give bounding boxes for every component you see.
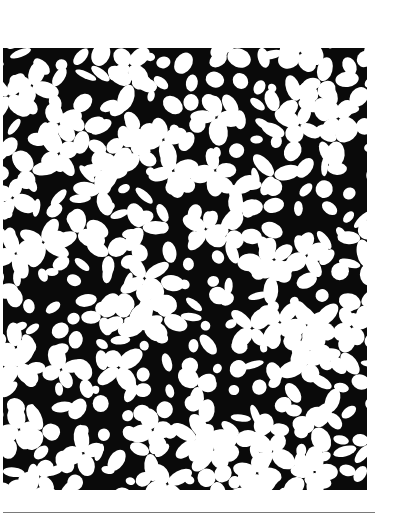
petal: [305, 446, 324, 471]
petal-pattern-illustration: [3, 48, 367, 490]
petal: [170, 49, 197, 77]
petal: [335, 70, 360, 88]
petal: [230, 413, 251, 423]
petal: [339, 403, 358, 421]
petal: [161, 240, 178, 264]
petal: [349, 372, 367, 393]
petal: [70, 48, 91, 68]
petal: [341, 209, 356, 225]
petal: [321, 48, 335, 50]
petal: [294, 201, 303, 216]
petal: [363, 76, 367, 89]
petal: [46, 268, 59, 276]
petal: [88, 48, 114, 69]
petal: [248, 95, 267, 113]
petal: [75, 292, 98, 308]
petal: [263, 277, 279, 305]
petal: [204, 69, 227, 90]
petal: [228, 384, 240, 396]
petal: [280, 138, 305, 164]
petal: [117, 182, 132, 195]
petal: [211, 362, 224, 375]
petal: [250, 135, 263, 143]
petal: [332, 434, 349, 446]
petal: [93, 395, 109, 412]
horizontal-rule: [3, 512, 375, 513]
petal: [160, 352, 174, 373]
petal: [196, 332, 220, 358]
petal: [3, 165, 10, 182]
petal: [135, 366, 151, 383]
petal: [134, 382, 153, 398]
petal: [133, 185, 155, 206]
petal: [155, 55, 171, 70]
petal: [98, 428, 110, 441]
petal: [164, 383, 176, 399]
petal: [22, 298, 36, 315]
petal: [94, 337, 110, 351]
petal: [365, 166, 367, 184]
petal: [297, 181, 315, 199]
petal: [185, 74, 199, 93]
petal: [366, 181, 367, 204]
petal: [209, 248, 226, 266]
petal: [199, 319, 212, 332]
petal: [154, 202, 171, 224]
petal: [364, 143, 367, 153]
petal: [206, 275, 220, 289]
petal: [227, 141, 247, 161]
petal: [113, 487, 132, 490]
petal: [314, 288, 329, 303]
petal: [120, 408, 136, 424]
petal: [365, 480, 367, 490]
petal: [341, 185, 358, 202]
petal: [188, 339, 198, 353]
petal: [363, 396, 367, 414]
petal: [183, 94, 199, 111]
petal: [251, 379, 267, 396]
petal: [182, 257, 194, 271]
petal: [67, 330, 84, 350]
petal: [184, 295, 204, 313]
petal: [65, 311, 81, 327]
petal-pattern-svg: [3, 48, 367, 490]
petal: [319, 198, 340, 217]
petal: [230, 70, 252, 92]
petal: [44, 299, 63, 316]
petal: [3, 404, 6, 424]
petal: [159, 92, 186, 118]
petal: [360, 359, 367, 368]
petal: [73, 256, 92, 274]
petal: [3, 56, 5, 68]
petal: [5, 117, 23, 137]
petal: [65, 272, 83, 288]
petal: [359, 263, 367, 286]
petal: [352, 433, 367, 447]
petal: [314, 179, 335, 200]
petal: [125, 476, 136, 486]
petal: [9, 48, 32, 61]
petal: [49, 319, 72, 342]
petal: [332, 443, 357, 459]
petal: [262, 196, 286, 215]
petal: [3, 437, 18, 459]
